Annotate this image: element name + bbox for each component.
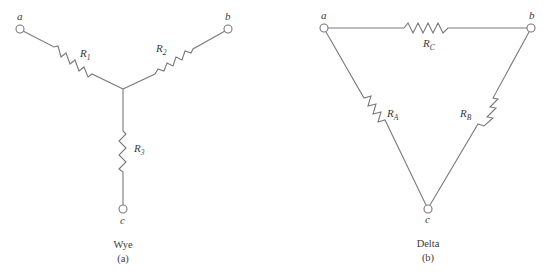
delta-label-b: b [529, 9, 535, 21]
wye-terminal-a [16, 25, 24, 33]
delta-caption: Delta [417, 238, 440, 249]
wye-terminal-b [224, 25, 232, 33]
wye-subcaption: (a) [117, 253, 129, 265]
wye-network: a b c R1 R2 R3 Wye (a) [16, 10, 232, 265]
wye-label-r3: R3 [133, 142, 145, 157]
wye-wire-r2 [123, 31, 225, 89]
delta-terminal-a [320, 24, 328, 32]
delta-label-ra: RA [386, 107, 399, 122]
delta-terminal-b [527, 24, 535, 32]
wye-label-a: a [17, 10, 23, 22]
wye-label-b: b [225, 10, 231, 22]
delta-wire-ra [326, 32, 426, 205]
wye-label-r2: R2 [155, 42, 167, 57]
delta-terminal-c [424, 205, 432, 213]
delta-label-rb: RB [459, 107, 472, 122]
delta-network: a b c RC RA RB Delta (b) [320, 9, 535, 264]
wye-terminal-c [119, 205, 127, 213]
delta-wire-rb [430, 32, 529, 205]
wye-wire-r1 [23, 31, 123, 89]
delta-label-rc: RC [422, 37, 436, 52]
wye-label-c: c [120, 214, 125, 226]
delta-label-c: c [425, 213, 430, 225]
delta-wire-rc [328, 23, 527, 33]
wye-wire-r3 [119, 89, 126, 205]
delta-subcaption: (b) [422, 252, 435, 264]
wye-label-r1: R1 [79, 47, 90, 62]
wye-delta-diagram: a b c R1 R2 R3 Wye (a) a b c RC RA RB De… [0, 0, 552, 280]
wye-caption: Wye [113, 239, 133, 250]
delta-label-a: a [321, 9, 327, 21]
